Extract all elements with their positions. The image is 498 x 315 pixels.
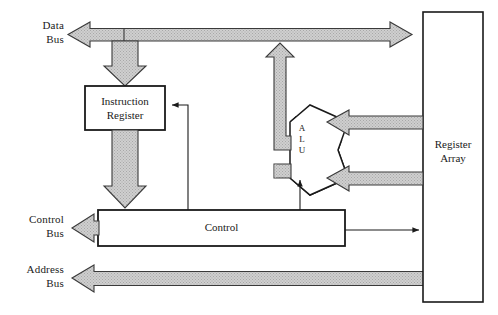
address-bus-label: Address Bus bbox=[0, 262, 64, 290]
alu-label: A L U bbox=[295, 123, 309, 156]
control-bus-arrow bbox=[72, 214, 99, 242]
ir-to-control-arrow bbox=[104, 130, 146, 208]
diagram-canvas: Data Bus Control Bus Address Bus Instruc… bbox=[0, 0, 498, 315]
control-label: Control bbox=[98, 220, 345, 234]
register-array-to-alu-lower-arrow bbox=[327, 166, 423, 191]
data-bus-to-ir-arrow bbox=[104, 41, 146, 86]
register-array-label: Register Array bbox=[423, 137, 483, 165]
instruction-register-label: Instruction Register bbox=[85, 94, 165, 122]
alu-to-data-bus-lower-leg bbox=[274, 164, 291, 178]
data-bus-label: Data Bus bbox=[6, 18, 64, 46]
control-bus-label: Control Bus bbox=[2, 212, 64, 240]
control-to-ir-line bbox=[172, 105, 188, 210]
address-bus-arrow bbox=[72, 265, 424, 292]
